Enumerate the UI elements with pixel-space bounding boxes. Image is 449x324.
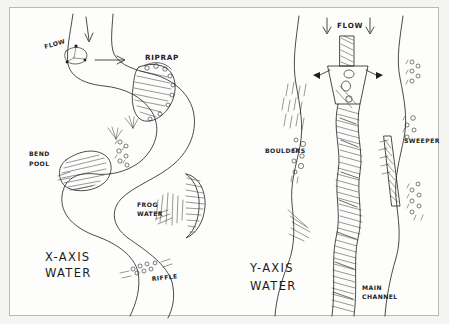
left-bank-grass [288,210,310,241]
frog-water-label-line1: FROG [137,201,158,208]
sweeper-label: SWEEPER [404,137,440,144]
boulder-field [282,82,306,183]
x-axis-caption-line2: WATER [45,266,92,280]
frog-water-label-line2: WATER [137,210,163,217]
flow-label-right: FLOW [337,21,363,30]
y-axis-caption-line1: Y-AXIS [249,261,294,275]
inflow-chute [340,36,354,66]
x-axis-caption-line1: X-AXIS [45,250,90,264]
boulders-label: BOULDERS [265,147,306,154]
riprap-bank [132,63,175,122]
flow-arrow-left [85,17,93,42]
main-channel-label-line2: CHANNEL [362,293,398,300]
cobble-cluster-plan [115,140,129,167]
point-bar-hatch [186,174,205,238]
frog-water-reeds [155,193,183,225]
bend-pool-label-line2: POOL [29,160,50,167]
section-view-panel: FLOW [249,16,440,316]
bend-pool-label-line1: BEND [29,150,50,157]
main-channel-band [332,104,362,316]
riffle-label: RIFFLE [151,272,178,282]
section-right-bank [385,16,406,316]
drawing-canvas: FLOW [0,0,449,324]
vegetation-strokes-upper [108,116,138,139]
channel-wedge [313,66,383,108]
riprap-label: RIPRAP [145,53,179,62]
plan-view-panel: FLOW [29,14,205,318]
y-axis-caption-line2: WATER [250,279,297,293]
sketch-page: FLOW [0,0,449,324]
flow-label-left: FLOW [43,37,66,50]
main-channel-label-line1: MAIN [362,284,382,291]
flow-direction-arrow [95,56,125,64]
